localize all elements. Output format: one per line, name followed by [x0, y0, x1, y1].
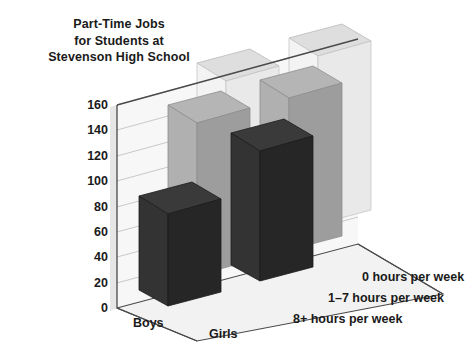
y-tick-40: 40 — [60, 251, 108, 263]
bar-boys-8-plus-hours — [139, 182, 221, 306]
y-tick-20: 20 — [60, 277, 108, 289]
y-tick-140: 140 — [60, 124, 108, 136]
series-label-0-hours: 0 hours per week — [362, 270, 464, 284]
bar-girls-8-plus-hours — [231, 119, 313, 281]
left-side-wall — [110, 105, 117, 311]
y-tick-0: 0 — [60, 302, 108, 314]
x-label-boys: Boys — [133, 316, 164, 330]
x-label-girls: Girls — [209, 327, 238, 341]
y-tick-80: 80 — [60, 201, 108, 213]
y-tick-160: 160 — [60, 99, 108, 111]
y-tick-100: 100 — [60, 175, 108, 187]
plot-area: 160 140 120 100 80 60 40 20 0 Boys Girls… — [0, 0, 473, 349]
chart-root: Part-Time Jobs for Students at Stevenson… — [0, 0, 473, 349]
y-tick-120: 120 — [60, 150, 108, 162]
y-tick-60: 60 — [60, 226, 108, 238]
series-label-8-plus-hours: 8+ hours per week — [293, 312, 402, 326]
series-label-1-7-hours: 1–7 hours per week — [328, 291, 444, 305]
